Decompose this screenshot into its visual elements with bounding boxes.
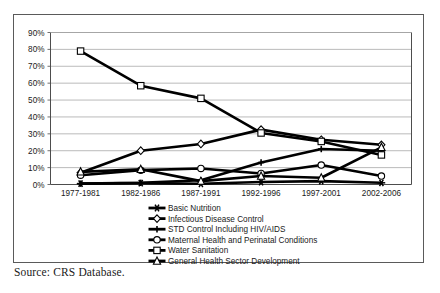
chart-frame <box>13 14 424 263</box>
source-note: Source: CRS Database. <box>14 266 125 278</box>
figure-container: 0%10%20%30%40%50%60%70%80%90%1977-198119… <box>0 0 440 293</box>
